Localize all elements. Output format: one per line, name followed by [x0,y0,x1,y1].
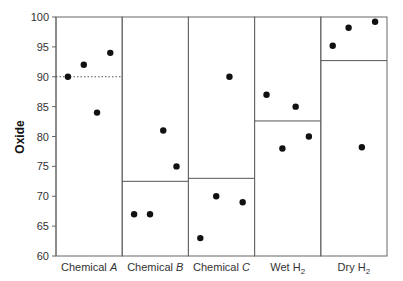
data-point [345,25,351,31]
panels [56,17,387,256]
panel-chemical-b [122,17,188,256]
chart: 6065707580859095100 Oxide Chemical AChem… [0,0,403,281]
panel-chemical-a [56,17,122,256]
data-point [131,211,137,217]
panel-dry-h2 [321,17,387,256]
data-point [65,74,71,80]
y-axis: 6065707580859095100 [31,11,56,262]
data-point [160,127,166,133]
x-tick-label: Chemical B [127,261,183,273]
y-tick-label: 60 [37,250,49,262]
data-point [107,50,113,56]
data-point [372,19,378,25]
x-tick-label: Chemical C [193,261,250,273]
data-point [226,74,232,80]
panel-frame [188,17,254,256]
y-tick-label: 85 [37,101,49,113]
data-point [263,91,269,97]
data-point [330,42,336,48]
data-point [173,163,179,169]
data-point [147,211,153,217]
data-point [279,145,285,151]
data-point [306,133,312,139]
data-point [94,109,100,115]
y-tick-label: 80 [37,131,49,143]
x-tick-label: Wet H2 [270,261,305,276]
y-tick-label: 100 [31,11,49,23]
data-point [197,235,203,241]
y-tick-label: 90 [37,71,49,83]
y-tick-label: 75 [37,160,49,172]
y-tick-label: 95 [37,41,49,53]
data-point [239,199,245,205]
panel-frame [321,17,387,256]
data-point [359,144,365,150]
x-tick-label: Chemical A [61,261,117,273]
y-axis-label: Oxide [13,120,27,154]
panel-wet-h2 [255,17,321,256]
panel-chemical-c [188,17,254,256]
x-tick-label: Dry H2 [338,261,371,276]
data-point [213,193,219,199]
y-tick-label: 70 [37,190,49,202]
data-point [81,62,87,68]
x-axis-labels: Chemical AChemical BChemical CWet H2Dry … [61,261,371,276]
y-tick-label: 65 [37,220,49,232]
panel-frame [122,17,188,256]
data-point [292,103,298,109]
